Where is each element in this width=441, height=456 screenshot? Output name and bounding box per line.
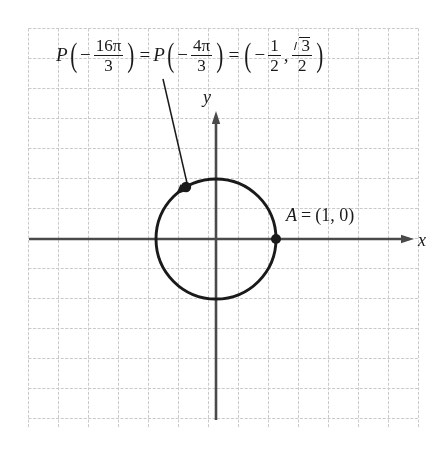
equation-equals-first: =	[140, 44, 151, 66]
equation-p2-function: P	[153, 44, 165, 66]
equation-coord-open-paren: (	[244, 41, 251, 69]
equation-p1-numerator: 16π	[94, 37, 124, 55]
point-a-label: A=(1, 0)	[286, 206, 354, 224]
equation-coord-x-sign: −	[254, 44, 265, 66]
equation-coord-close-paren: )	[316, 41, 323, 69]
equation-coord-y-denominator: 2	[292, 55, 312, 74]
equation-p1-fraction: 16π 3	[94, 37, 124, 75]
equation-equals-second: =	[228, 44, 239, 66]
equation-p1-function: P	[56, 44, 68, 66]
point-a-name: A	[286, 205, 297, 225]
equation-p1-denominator: 3	[94, 55, 124, 74]
equation-p2-fraction: 4π 3	[191, 37, 212, 75]
equation-p1-open-paren: (	[70, 41, 77, 69]
equation-p2-open-paren: (	[167, 41, 174, 69]
equation-coord-comma: ,	[284, 44, 289, 66]
equation-coord-y-fraction: 3 2	[292, 36, 312, 75]
equation-coord-y-numerator: 3	[292, 36, 312, 55]
equation-coord-x-numerator: 1	[268, 37, 281, 55]
equation-p1-close-paren: )	[127, 41, 134, 69]
equation-point-p: P ( − 16π 3 ) = P ( − 4π 3 ) = ( − 1 2 ,…	[56, 36, 325, 75]
x-axis-label: x	[418, 231, 426, 249]
equation-coord-x-denominator: 2	[268, 55, 281, 74]
point-a-equals: =	[301, 205, 311, 225]
point-a-coords: (1, 0)	[315, 205, 354, 225]
equation-p1-sign: −	[80, 44, 91, 66]
square-root-icon: 3	[294, 36, 310, 54]
equation-coord-x-fraction: 1 2	[268, 37, 281, 75]
equation-p2-denominator: 3	[191, 55, 212, 74]
equation-p2-close-paren: )	[216, 41, 223, 69]
figure-unit-circle-diagram: P ( − 16π 3 ) = P ( − 4π 3 ) = ( − 1 2 ,…	[0, 0, 441, 456]
y-axis-label: y	[203, 88, 211, 106]
equation-p2-numerator: 4π	[191, 37, 212, 55]
equation-p2-sign: −	[177, 44, 188, 66]
